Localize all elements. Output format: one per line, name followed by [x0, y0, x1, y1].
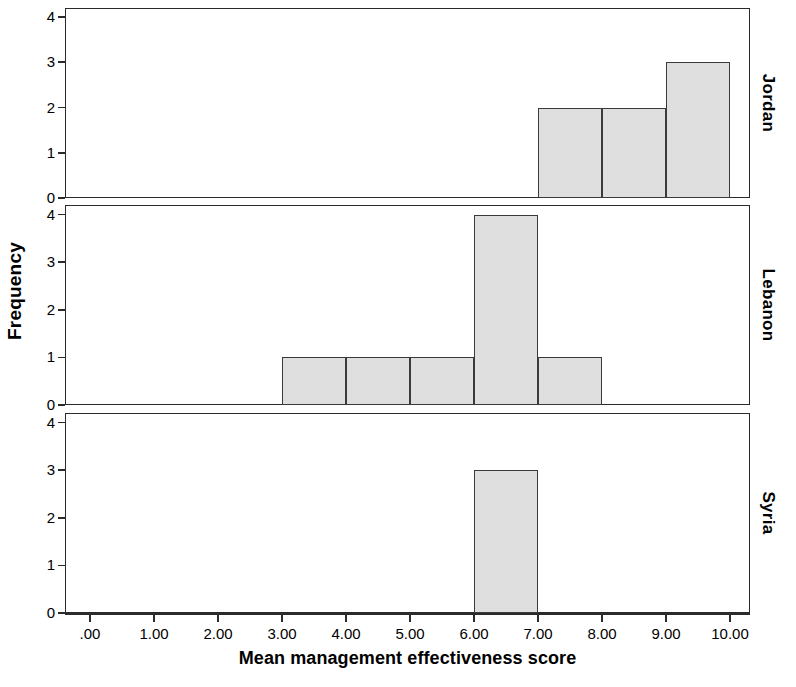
bar [538, 357, 602, 405]
x-tick-label: 5.00 [380, 625, 440, 642]
panel-label-jordan: Jordan [758, 43, 778, 163]
y-tick-mark [58, 152, 65, 154]
x-axis-line [65, 613, 750, 615]
x-tick-mark [601, 614, 603, 622]
y-tick-mark [58, 469, 65, 471]
y-tick-label: 2 [33, 302, 55, 317]
x-tick-label: .00 [60, 625, 120, 642]
x-tick-label: 9.00 [636, 625, 696, 642]
x-tick-mark [729, 614, 731, 622]
y-tick-label: 1 [33, 145, 55, 160]
y-tick-label: 3 [33, 462, 55, 477]
x-tick-label: 6.00 [444, 625, 504, 642]
y-tick-label: 2 [33, 100, 55, 115]
y-tick-mark [58, 517, 65, 519]
bar [474, 470, 538, 613]
x-tick-mark [153, 614, 155, 622]
y-tick-mark [58, 422, 65, 424]
y-tick-mark [58, 309, 65, 311]
y-tick-mark [58, 16, 65, 18]
y-tick-label: 4 [33, 415, 55, 430]
bar [538, 108, 602, 198]
panel-label-syria: Syria [758, 453, 778, 573]
bar [282, 357, 346, 405]
y-tick-label: 1 [33, 349, 55, 364]
x-tick-label: 3.00 [252, 625, 312, 642]
x-tick-label: 1.00 [124, 625, 184, 642]
y-tick-mark [58, 107, 65, 109]
y-tick-mark [58, 612, 65, 614]
panel-syria [65, 413, 750, 613]
y-tick-mark [58, 565, 65, 567]
bar [410, 357, 474, 405]
x-tick-label: 10.00 [700, 625, 760, 642]
x-tick-mark [537, 614, 539, 622]
x-tick-label: 2.00 [188, 625, 248, 642]
y-tick-label: 3 [33, 254, 55, 269]
y-tick-label: 1 [33, 557, 55, 572]
x-tick-mark [473, 614, 475, 622]
y-tick-mark [58, 214, 65, 216]
x-tick-label: 4.00 [316, 625, 376, 642]
x-tick-mark [89, 614, 91, 622]
y-tick-label: 4 [33, 207, 55, 222]
y-tick-label: 0 [33, 605, 55, 620]
x-tick-mark [409, 614, 411, 622]
y-tick-mark [58, 197, 65, 199]
x-tick-mark [345, 614, 347, 622]
x-tick-mark [217, 614, 219, 622]
bar [346, 357, 410, 405]
y-tick-label: 0 [33, 397, 55, 412]
y-tick-mark [58, 261, 65, 263]
y-axis-title: Frequency [4, 231, 26, 351]
bar [474, 215, 538, 405]
x-axis-title: Mean management effectiveness score [65, 648, 750, 669]
y-tick-label: 3 [33, 54, 55, 69]
x-tick-mark [281, 614, 283, 622]
bar [666, 62, 730, 198]
x-tick-label: 8.00 [572, 625, 632, 642]
y-tick-label: 4 [33, 9, 55, 24]
y-tick-mark [58, 61, 65, 63]
y-tick-label: 0 [33, 190, 55, 205]
y-tick-mark [58, 357, 65, 359]
y-tick-mark [58, 404, 65, 406]
bar [602, 108, 666, 198]
x-tick-label: 7.00 [508, 625, 568, 642]
panel-label-lebanon: Lebanon [758, 245, 778, 365]
histogram-figure: Frequency Mean management effectiveness … [0, 0, 796, 687]
y-tick-label: 2 [33, 510, 55, 525]
x-tick-mark [665, 614, 667, 622]
